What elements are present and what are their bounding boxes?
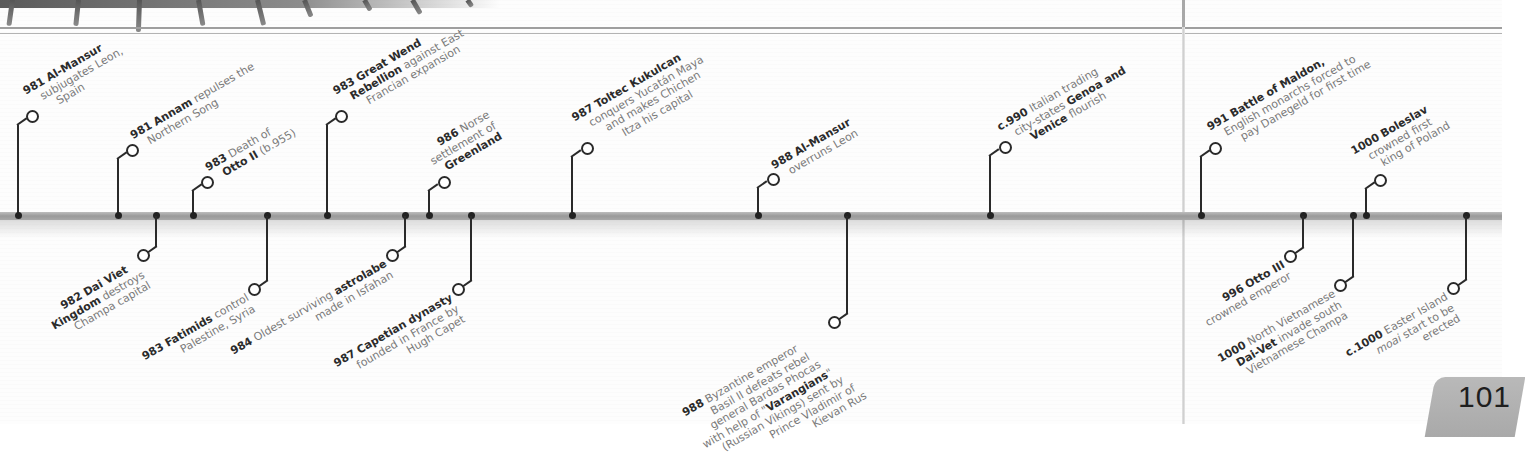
- event-marker-circle-icon: [452, 283, 465, 296]
- event-stem: [1200, 157, 1202, 216]
- event-marker-circle-icon: [137, 249, 150, 262]
- event-stem: [1465, 216, 1467, 280]
- timeline-bar-shadow: [0, 220, 1502, 238]
- event-stem: [326, 125, 328, 216]
- timeline-dot-icon: [190, 212, 197, 219]
- event-stem: [846, 216, 848, 314]
- event-marker-circle-icon: [1284, 250, 1297, 263]
- event-marker-circle-icon: [386, 249, 399, 262]
- event-stem: [571, 157, 573, 216]
- timeline-dot-icon: [115, 212, 122, 219]
- event-marker-circle-icon: [1334, 279, 1347, 292]
- event-marker-circle-icon: [248, 283, 261, 296]
- event-stem: [155, 216, 157, 247]
- event-stem: [17, 125, 19, 216]
- timeline-dot-icon: [324, 212, 331, 219]
- header-rule: [0, 27, 1502, 29]
- timeline-dot-icon: [755, 212, 762, 219]
- event-stem: [470, 216, 472, 281]
- event-stem: [989, 156, 991, 216]
- timeline-dot-icon: [1198, 212, 1205, 219]
- event-stem: [404, 216, 406, 247]
- timeline-dot-icon: [569, 212, 576, 219]
- event-stem: [1352, 216, 1354, 277]
- event-marker-circle-icon: [1447, 282, 1460, 295]
- event-stem: [117, 159, 119, 216]
- timeline-dot-icon: [426, 212, 433, 219]
- page-gutter-top: [1182, 0, 1185, 27]
- timeline-dot-icon: [1363, 212, 1370, 219]
- event-marker-circle-icon: [1374, 174, 1387, 187]
- header-rule-thin: [0, 33, 1502, 34]
- timeline-bar: [0, 212, 1502, 220]
- timeline-dot-icon: [987, 212, 994, 219]
- page-number: 101: [1458, 380, 1511, 414]
- event-marker-circle-icon: [828, 316, 841, 329]
- timeline-dot-icon: [15, 212, 22, 219]
- event-stem: [1302, 216, 1304, 248]
- event-stem: [266, 216, 268, 281]
